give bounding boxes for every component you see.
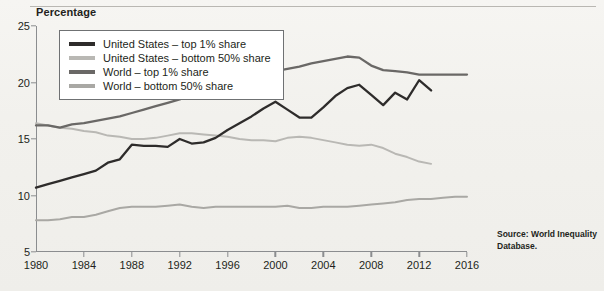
legend-swatch-us-bottom50: [69, 56, 95, 59]
source-note: Source: World Inequality Database.: [497, 228, 601, 253]
series-line: [36, 197, 467, 221]
x-tick-label: 1980: [24, 259, 48, 271]
legend-swatch-world-top1: [69, 70, 95, 73]
y-tick-label: 25: [18, 20, 30, 32]
y-axis-title: Percentage: [36, 6, 96, 18]
series-line: [36, 123, 431, 164]
x-tick-label: 2012: [407, 259, 431, 271]
y-tick-label: 10: [18, 190, 30, 202]
y-tick-label: 15: [18, 133, 30, 145]
legend-swatch-us-top1: [69, 42, 95, 45]
x-tick-label: 2004: [311, 259, 335, 271]
x-tick-label: 1992: [167, 259, 191, 271]
x-tick-label: 2016: [455, 259, 479, 271]
legend-item-label: United States – top 1% share: [103, 39, 246, 50]
x-tick-label: 2008: [359, 259, 383, 271]
x-tick-label: 1996: [215, 259, 239, 271]
x-tick-mark: [275, 252, 276, 257]
top-divider-rule: [30, 6, 596, 7]
x-tick-label: 1988: [120, 259, 144, 271]
x-tick-mark: [131, 252, 132, 257]
legend-item: World – top 1% share: [69, 65, 271, 79]
x-tick-label: 2000: [263, 259, 287, 271]
y-tick-label: 20: [18, 77, 30, 89]
chart-legend: United States – top 1% shareUnited State…: [59, 30, 284, 100]
x-tick-mark: [466, 252, 467, 257]
x-tick-mark: [371, 252, 372, 257]
legend-item-label: United States – bottom 50% share: [103, 53, 271, 64]
x-tick-mark: [179, 252, 180, 257]
legend-item: United States – bottom 50% share: [69, 51, 271, 65]
legend-swatch-world-bottom50: [69, 84, 95, 87]
legend-item-label: World – top 1% share: [103, 67, 209, 78]
figure-page: Percentage 510152025 1980198419881992199…: [0, 0, 604, 291]
x-tick-mark: [227, 252, 228, 257]
legend-item: United States – top 1% share: [69, 37, 271, 51]
x-tick-mark: [323, 252, 324, 257]
legend-item-label: World – bottom 50% share: [103, 81, 233, 92]
x-tick-mark: [418, 252, 419, 257]
chart-plot-area: 510152025 198019841988199219962000200420…: [36, 26, 467, 252]
x-tick-label: 1984: [72, 259, 96, 271]
y-tick-label: 5: [24, 246, 30, 258]
legend-item: World – bottom 50% share: [69, 79, 271, 93]
x-tick-mark: [83, 252, 84, 257]
